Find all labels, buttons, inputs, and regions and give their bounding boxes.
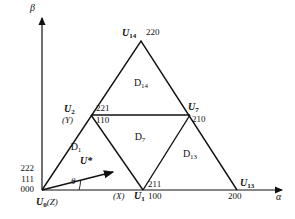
vertex-u14-code-220: 220 [146,28,160,37]
vertex-u2-code-221: 221 [96,104,110,113]
beta-axis-label: β [30,3,35,14]
theta-angle-label: θ [71,177,75,186]
vertex-u1-code-211: 211 [148,180,161,189]
vertex-label-u13: U13 [240,178,254,190]
reference-vector-label: U* [80,156,92,167]
region-label-d14: D14 [134,78,148,90]
vertex-u2-alias: (Y) [62,116,73,125]
origin-state-codes: 222 111 000 [6,163,34,195]
vertex-label-u14: U14 [122,28,136,40]
vertex-label-u0: U0(Z) [36,192,58,209]
origin-code-222: 222 [6,163,34,174]
vertex-label-u1: U1 [134,191,145,203]
vertex-u0-symbol: U0 [36,196,47,207]
vertex-u2-code-110: 110 [96,116,109,125]
region-label-d13: D13 [183,149,197,161]
vertex-label-u7: U7 [188,102,199,114]
alpha-axis-label: α [276,192,281,203]
vertex-u13-code-200: 200 [228,192,242,201]
vertex-u0-alias: (Z) [47,197,58,207]
space-vector-diagram: β α 222 111 000 U0(Z) (X) U1 211 100 U2 … [0,0,295,219]
origin-code-111: 111 [6,174,34,185]
vertex-u7-code-210: 210 [192,115,206,124]
region-label-d1: D1 [71,142,82,154]
vertex-u1-alias: (X) [113,192,125,201]
region-label-d7: D7 [135,132,146,144]
theta-arc [79,181,81,190]
origin-code-000: 000 [6,184,34,195]
edge-u2-u1 [91,115,143,190]
vertex-u1-code-100: 100 [148,192,162,201]
